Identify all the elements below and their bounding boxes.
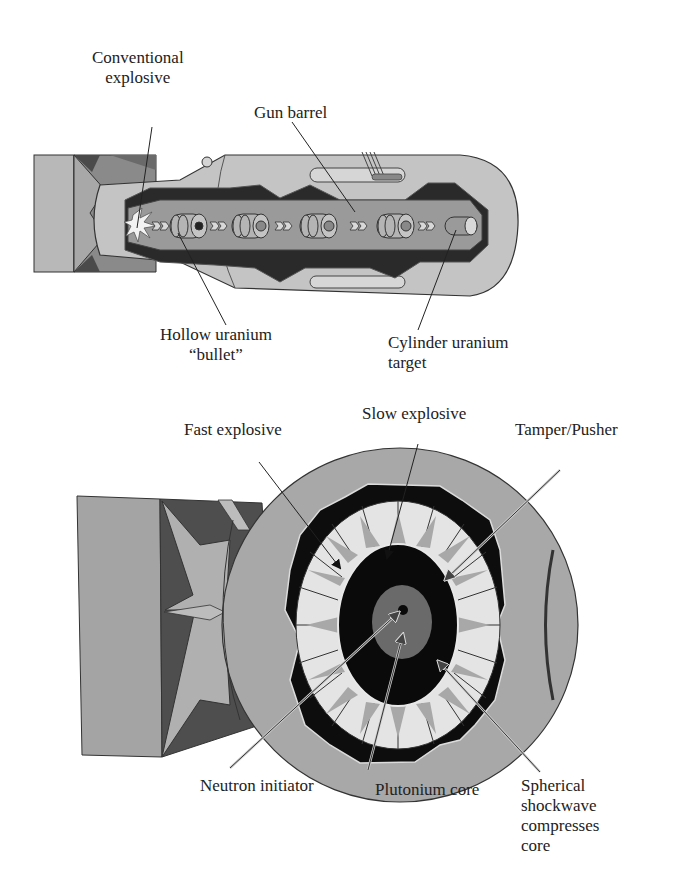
label-line: Conventional [92, 48, 184, 68]
label-line: core [521, 836, 599, 856]
label-conventional-explosive: Conventional explosive [92, 48, 184, 88]
label-line: Cylinder uranium [388, 333, 508, 353]
label-line: target [388, 353, 508, 373]
label-hollow-uranium-bullet: Hollow uranium “bullet” [160, 325, 272, 365]
label-line: compresses [521, 816, 599, 836]
neutron-initiator [398, 605, 408, 615]
gun-type-diagram [0, 0, 689, 888]
label-tamper-pusher: Tamper/Pusher [515, 420, 618, 440]
label-fast-explosive: Fast explosive [184, 420, 282, 440]
label-plutonium-core: Plutonium core [375, 780, 479, 800]
label-line: Spherical [521, 776, 599, 796]
plutonium-core [372, 585, 432, 659]
label-spherical-shockwave: Spherical shockwave compresses core [521, 776, 599, 856]
label-line: shockwave [521, 796, 599, 816]
label-neutron-initiator: Neutron initiator [200, 776, 314, 796]
label-line: explosive [92, 68, 184, 88]
uranium-target-cylinder [445, 217, 477, 235]
label-line: Hollow uranium [160, 325, 272, 345]
label-gun-barrel: Gun barrel [254, 103, 327, 123]
label-line: “bullet” [160, 345, 272, 365]
label-cylinder-uranium-target: Cylinder uranium target [388, 333, 508, 373]
label-slow-explosive: Slow explosive [362, 404, 466, 424]
